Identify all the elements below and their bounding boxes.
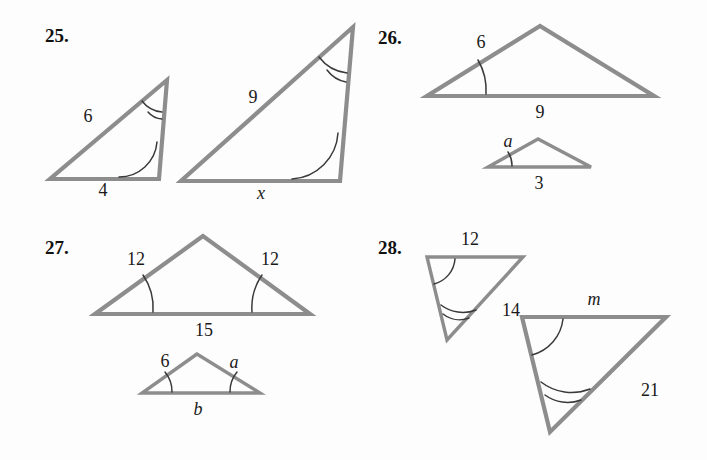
label-left-6: 6 <box>161 351 170 371</box>
triangle-outline <box>427 26 654 96</box>
problem-26-group: 26. 6 9 a 3 <box>378 26 654 193</box>
label-base-4: 4 <box>99 180 108 200</box>
angle-arc-top-left <box>532 319 563 355</box>
angle-arc-bottom-outer <box>541 382 590 392</box>
problem-28-small-triangle <box>427 257 523 340</box>
triangle-outline <box>522 317 666 432</box>
label-top-12: 12 <box>461 229 479 249</box>
label-side-6: 6 <box>84 106 93 126</box>
triangle-outline <box>427 257 523 340</box>
label-side-6: 6 <box>477 32 486 52</box>
triangle-outline <box>50 80 167 179</box>
problem-28-number: 28. <box>378 237 402 258</box>
angle-arc-bottom-outer <box>441 305 476 312</box>
angle-arc-bottom-right <box>119 142 157 177</box>
angle-arc-bottom-right <box>252 275 262 312</box>
label-base-9: 9 <box>536 102 545 122</box>
angle-arc-bottom-inner <box>545 395 581 402</box>
problem-26-large-triangle <box>427 26 654 96</box>
label-base-x: x <box>256 183 265 203</box>
problem-28-group: 28. 12 14 m 21 <box>378 229 666 432</box>
problem-25-large-triangle <box>181 27 353 181</box>
label-base-b: b <box>194 399 203 419</box>
problem-28-large-triangle <box>522 317 666 432</box>
problem-25-number: 25. <box>45 25 69 46</box>
angle-arc-bottom-inner <box>443 314 469 320</box>
angle-arc-top-left <box>434 259 455 284</box>
label-right-a: a <box>230 352 239 372</box>
label-right-21: 21 <box>641 380 659 400</box>
label-side-9: 9 <box>249 87 258 107</box>
label-base-3: 3 <box>535 173 544 193</box>
label-right-12: 12 <box>261 249 279 269</box>
problem-25-small-triangle <box>50 80 167 179</box>
triangle-outline <box>181 27 353 181</box>
triangle-outline <box>95 236 310 314</box>
angle-arc-bottom-right <box>292 133 338 179</box>
problem-27-large-triangle <box>95 236 310 314</box>
label-base-15: 15 <box>195 320 213 340</box>
label-right-14: 14 <box>502 300 520 320</box>
angle-arc-apex-outer <box>142 101 162 112</box>
label-top-m: m <box>588 289 601 309</box>
label-left-12: 12 <box>127 249 145 269</box>
problem-25-group: 25. 6 4 9 x <box>45 25 353 203</box>
angle-arc-apex-outer <box>319 57 347 73</box>
problem-27-number: 27. <box>45 237 69 258</box>
exercise-page: 25. 6 4 9 x <box>0 0 707 460</box>
problem-26-number: 26. <box>378 27 402 48</box>
angle-arc-apex-inner <box>148 112 162 119</box>
label-side-a: a <box>504 131 513 151</box>
figures-canvas: 25. 6 4 9 x <box>0 0 707 460</box>
problem-27-group: 27. 12 12 15 6 a b <box>45 236 310 419</box>
